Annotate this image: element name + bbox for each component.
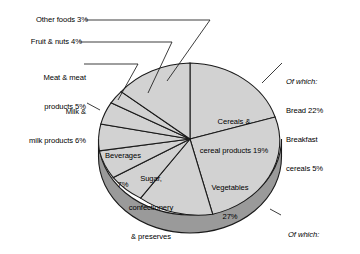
- slice-label-vegetables: Vegetables 27%: [196, 164, 264, 241]
- annotation-vegetables-heading: Of which:: [288, 230, 360, 240]
- slice-label-sugar-line2: confectionery: [114, 203, 188, 213]
- annotation-vegetables: Of which: Potatoes 11%: [288, 211, 360, 254]
- annotation-cereals-line1: Bread 22%: [286, 106, 360, 116]
- callout-label-milk-line2: milk products 6%: [0, 136, 86, 146]
- annotation-cereals: Of which: Bread 22% Breakfast cereals 5%: [286, 58, 360, 192]
- slice-label-cereals: Cereals & cereal products 19%: [186, 98, 282, 175]
- slice-label-sugar-line1: Sugar,: [114, 174, 188, 184]
- pie-chart-figure: Other foods 3% Fruit & nuts 4% Meat & me…: [0, 0, 360, 254]
- leader-line-vegetables-note: [270, 209, 281, 215]
- callout-label-milk-line1: Milk &: [0, 107, 86, 117]
- slice-label-sugar: Sugar, confectionery & preserves 13%: [114, 155, 188, 254]
- leader-line-milk: [87, 103, 100, 110]
- slice-label-vegetables-line1: Vegetables: [196, 183, 264, 193]
- callout-label-meat-line1: Meat & meat: [0, 73, 86, 83]
- callout-label-other-foods: Other foods 3%: [0, 15, 88, 25]
- annotation-cereals-heading: Of which:: [286, 77, 360, 87]
- slice-label-sugar-line3: & preserves: [114, 232, 188, 242]
- callout-label-milk: Milk & milk products 6%: [0, 88, 86, 165]
- slice-label-vegetables-line2: 27%: [196, 212, 264, 222]
- leader-line-cereals-note: [262, 63, 282, 83]
- slice-label-cereals-line2: cereal products 19%: [186, 146, 282, 156]
- slice-label-cereals-line1: Cereals &: [186, 117, 282, 127]
- annotation-cereals-line2: Breakfast: [286, 135, 360, 145]
- annotation-cereals-line3: cereals 5%: [286, 164, 360, 174]
- callout-label-fruit-nuts: Fruit & nuts 4%: [0, 37, 82, 47]
